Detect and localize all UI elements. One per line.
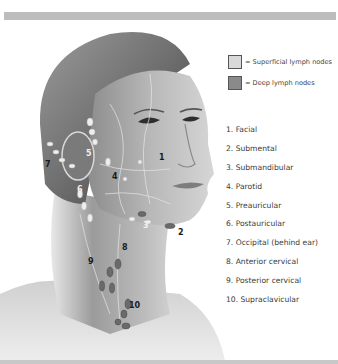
legend-item-deep: = Deep lymph nodes	[228, 76, 332, 90]
list-item: 5. Preauricular	[226, 200, 318, 219]
diagram-label-3: 3	[143, 222, 149, 230]
diagram-label-5: 5	[86, 150, 92, 158]
legend-item-superficial: = Superficial lymph nodes	[228, 55, 332, 69]
list-item: 2. Submental	[226, 143, 318, 162]
list-item: 10. Supraclavicular	[226, 294, 318, 313]
superficial-swatch-icon	[228, 55, 242, 69]
diagram-label-2: 2	[178, 229, 184, 237]
head-neck-illustration: 1 2 3 4 5 6 7 8 9 10	[0, 14, 230, 360]
diagram-label-10: 10	[129, 302, 140, 310]
diagram-label-7: 7	[45, 161, 51, 169]
list-item: 7. Occipital (behind ear)	[226, 237, 318, 256]
diagram-label-9: 9	[88, 258, 94, 266]
list-item: 1. Facial	[226, 124, 318, 143]
list-item: 4. Parotid	[226, 181, 318, 200]
deep-swatch-icon	[228, 76, 242, 90]
bottom-divider-bar	[0, 360, 338, 364]
lymph-node-list: 1. Facial 2. Submental 3. Submandibular …	[226, 124, 318, 313]
list-item: 6. Postauricular	[226, 218, 318, 237]
list-item: 8. Anterior cervical	[226, 256, 318, 275]
legend-label: = Deep lymph nodes	[245, 79, 315, 87]
diagram-label-8: 8	[122, 244, 128, 252]
diagram-label-4: 4	[112, 173, 118, 181]
diagram-label-1: 1	[159, 154, 165, 162]
legend-label: = Superficial lymph nodes	[245, 58, 332, 66]
legend: = Superficial lymph nodes = Deep lymph n…	[228, 55, 332, 97]
list-item: 3. Submandibular	[226, 162, 318, 181]
diagram-label-6: 6	[77, 186, 83, 194]
list-item: 9. Posterior cervical	[226, 275, 318, 294]
